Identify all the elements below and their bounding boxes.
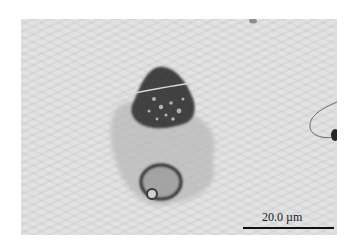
- scale-bar-label: 20.0 µm: [262, 210, 302, 225]
- micrograph-image: [21, 19, 337, 235]
- specimen-drawing: [21, 19, 337, 235]
- scale-bar-line: [243, 227, 334, 229]
